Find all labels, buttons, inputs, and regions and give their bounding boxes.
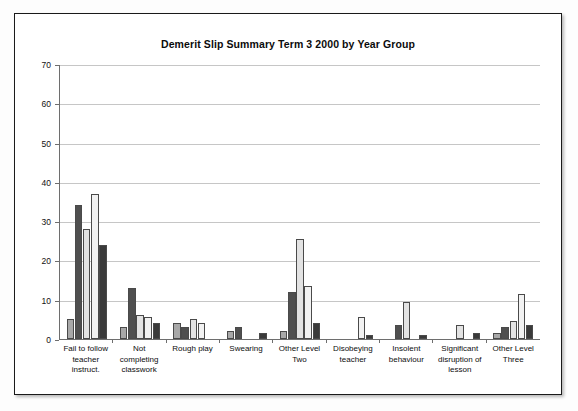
bar (288, 292, 295, 339)
bar (456, 325, 463, 339)
bar (235, 327, 242, 339)
x-axis-label-line: lesson (434, 365, 485, 376)
x-tick-mark (432, 339, 433, 343)
x-axis-label-line: Rough play (167, 344, 218, 355)
x-axis-label: Significantdisruption oflesson (433, 344, 486, 376)
y-tick-mark (55, 340, 59, 341)
bar-group (167, 65, 220, 339)
bars-layer (60, 65, 540, 339)
y-tick-label: 40 (21, 178, 51, 188)
bar (296, 239, 303, 339)
bar (67, 319, 74, 339)
plot-area (59, 65, 540, 340)
bar-group (433, 65, 486, 339)
bar (198, 323, 205, 339)
x-axis-label-line: classwork (113, 365, 164, 376)
bar (304, 286, 311, 339)
x-axis-label: Insolentbehaviour (380, 344, 433, 376)
x-axis-label-line: Insolent (381, 344, 432, 355)
bar (510, 321, 517, 339)
y-tick-mark (55, 261, 59, 262)
bar-group (113, 65, 166, 339)
bar (91, 194, 98, 339)
y-tick-label: 70 (21, 60, 51, 70)
bar (181, 327, 188, 339)
bar-group (327, 65, 380, 339)
bar (128, 288, 135, 339)
bar (419, 335, 426, 339)
x-axis-label: Not completingclasswork (112, 344, 165, 376)
bar (403, 302, 410, 339)
y-tick-label: 30 (21, 217, 51, 227)
x-axis-label: Disobeyingteacher (326, 344, 379, 376)
bar-group (487, 65, 540, 339)
y-tick-label: 60 (21, 99, 51, 109)
x-axis-label-line: Not completing (113, 344, 164, 365)
x-axis-label-line: instruct. (60, 365, 111, 376)
x-axis-label-line: disruption of (434, 355, 485, 366)
y-tick-label: 10 (21, 296, 51, 306)
y-tick-label: 0 (21, 335, 51, 345)
x-axis-label-line: teacher (327, 355, 378, 366)
bar (120, 327, 127, 339)
x-axis-label-line: Significant (434, 344, 485, 355)
bar (395, 325, 402, 339)
bar (83, 229, 90, 339)
x-axis-label: Other LevelThree (487, 344, 540, 376)
bar-group (60, 65, 113, 339)
x-tick-mark (272, 339, 273, 343)
chart-page: Demerit Slip Summary Term 3 2000 by Year… (0, 0, 578, 411)
x-tick-mark (166, 339, 167, 343)
y-tick-mark (55, 104, 59, 105)
x-tick-mark (112, 339, 113, 343)
x-axis-label-line: Disobeying (327, 344, 378, 355)
x-axis-label-line: Other Level (488, 344, 539, 355)
bar (259, 333, 266, 339)
x-axis-label-line: Other Level (274, 344, 325, 355)
x-tick-mark (326, 339, 327, 343)
x-axis-label-line: Three (488, 355, 539, 366)
bar-group (220, 65, 273, 339)
bar-group (273, 65, 326, 339)
bar (173, 323, 180, 339)
bar (518, 294, 525, 339)
chart-frame: Demerit Slip Summary Term 3 2000 by Year… (14, 13, 562, 395)
chart-title: Demerit Slip Summary Term 3 2000 by Year… (15, 38, 561, 50)
y-tick-label: 50 (21, 139, 51, 149)
bar (280, 331, 287, 339)
x-axis-label-line: Two (274, 355, 325, 366)
bar (153, 323, 160, 339)
x-tick-mark (219, 339, 220, 343)
y-tick-mark (55, 144, 59, 145)
x-axis-label-line: Fail to follow (60, 344, 111, 355)
bar (227, 331, 234, 339)
x-axis-label: Swearing (219, 344, 272, 376)
x-axis-label-line: behaviour (381, 355, 432, 366)
bar (501, 327, 508, 339)
bar (144, 317, 151, 339)
x-axis-label: Rough play (166, 344, 219, 376)
x-axis-label-line: Swearing (220, 344, 271, 355)
y-tick-mark (55, 301, 59, 302)
x-tick-mark (379, 339, 380, 343)
bar (366, 335, 373, 339)
bar (313, 323, 320, 339)
x-tick-mark (486, 339, 487, 343)
bar (358, 317, 365, 339)
y-tick-mark (55, 65, 59, 66)
bar-group (380, 65, 433, 339)
bar (136, 315, 143, 339)
y-tick-mark (55, 222, 59, 223)
x-axis-labels: Fail to followteacherinstruct.Not comple… (59, 344, 540, 376)
bar (190, 319, 197, 339)
x-axis-label-line: teacher (60, 355, 111, 366)
bar (75, 205, 82, 339)
bar (99, 245, 106, 339)
y-tick-mark (55, 183, 59, 184)
bar (526, 325, 533, 339)
y-tick-label: 20 (21, 256, 51, 266)
x-axis-label: Fail to followteacherinstruct. (59, 344, 112, 376)
bar (473, 333, 480, 339)
x-axis-label: Other LevelTwo (273, 344, 326, 376)
bar (493, 333, 500, 339)
